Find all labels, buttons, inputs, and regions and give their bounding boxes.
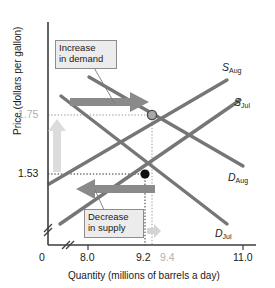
- curve-label-s-jul-letter: S: [234, 96, 241, 108]
- decrease-in-supply-callout: Decrease in supply: [84, 209, 144, 238]
- y-tick-1-53: 1.53: [18, 168, 38, 179]
- quantity-rise-arrow: [147, 224, 161, 238]
- supply-shift-arrow: [76, 179, 155, 199]
- initial-equilibrium-point: [140, 169, 149, 178]
- curve-label-s-jul-sub: Jul: [241, 102, 250, 109]
- curve-label-d-jul-letter: D: [215, 227, 223, 239]
- x-tick-8-0: 8.0: [80, 252, 95, 263]
- increase-in-demand-line2: in demand: [59, 54, 113, 65]
- curve-label-s-aug-sub: Aug: [229, 67, 241, 74]
- x-tick-9-2: 9.2: [136, 252, 151, 263]
- y-tick-1-75: 1.75: [18, 109, 38, 120]
- curve-label-s-aug-letter: S: [222, 61, 229, 73]
- x-tick-9-4: 9.4: [160, 252, 175, 263]
- increase-in-demand-callout: Increase in demand: [55, 40, 117, 69]
- x-tick-11-0: 11.0: [233, 252, 253, 263]
- curve-label-d-aug-letter: D: [228, 171, 236, 183]
- curve-label-d-jul: DJul: [215, 228, 232, 239]
- curve-label-d-jul-sub: Jul: [223, 233, 232, 240]
- decrease-in-supply-line2: in supply: [88, 223, 140, 234]
- supply-demand-chart: Price (dollars per gallon) 1.75 1.53 0 8…: [0, 0, 275, 288]
- x-axis-title: Quantity (millions of barrels a day): [68, 271, 220, 281]
- curve-label-s-aug: SAug: [222, 62, 241, 73]
- x-tick-0: 0: [39, 252, 45, 263]
- curve-label-d-aug: DAug: [228, 172, 248, 183]
- curve-label-s-jul: SJul: [234, 97, 250, 108]
- chart-canvas: [0, 0, 275, 288]
- price-rise-arrow: [48, 119, 66, 172]
- curve-label-d-aug-sub: Aug: [236, 177, 248, 184]
- new-equilibrium-point: [147, 110, 156, 119]
